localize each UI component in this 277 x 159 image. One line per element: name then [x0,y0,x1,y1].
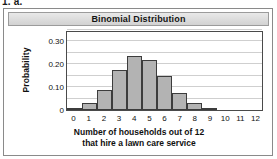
x-axis-tick-label: 12 [248,113,263,125]
bar-slot [97,32,112,110]
bar-slot [127,32,142,110]
x-axis-tick-label: 3 [111,113,126,125]
bar-slot [217,32,232,110]
x-axis-tick-label: 0 [66,113,81,125]
bar-slot [247,32,262,110]
gridline [67,29,262,30]
bar [187,103,202,110]
bar [157,76,172,110]
bar-slot [172,32,187,110]
x-axis-tick-label: 4 [127,113,142,125]
x-axis-title-line-1: Number of households out of 12 [24,127,254,138]
bar [112,70,127,110]
plot-area [66,31,263,111]
chart-title: Binomial Distribution [91,14,185,24]
bar-slot [157,32,172,110]
bar [127,56,142,110]
chart-figure-box: Binomial Distribution Probability 00.100… [3,8,273,156]
bar-slot [232,32,247,110]
x-axis-tick-labels: 0123456789101112 [66,113,263,125]
bar-slot [187,32,202,110]
y-axis-tick-label: 0.10 [38,84,64,92]
bar-slot [112,32,127,110]
bar [82,103,97,110]
x-axis-tick-label: 6 [157,113,172,125]
x-axis-tick-label: 1 [81,113,96,125]
bar [142,60,157,110]
bar [172,93,187,110]
bar-slot [202,32,217,110]
x-axis-tick-label: 2 [96,113,111,125]
bar-slot [67,32,82,110]
x-axis-title: Number of households out of 12 that hire… [24,127,254,149]
y-axis-tick-labels: 00.100.200.30 [34,31,64,111]
y-axis-tick-label: 0.20 [38,61,64,69]
x-axis-tick-label: 8 [187,113,202,125]
figure-root: 1. a. Binomial Distribution Probability … [0,0,277,159]
x-axis-tick-label: 5 [142,113,157,125]
problem-number-label: 1. a. [2,0,22,7]
x-axis-title-line-2: that hire a lawn care service [24,138,254,149]
bar-slot [82,32,97,110]
y-axis-title: Probability [21,40,31,100]
bar [202,108,217,110]
x-axis-tick-label: 11 [233,113,248,125]
x-axis-tick-label: 9 [202,113,217,125]
bar-slot [142,32,157,110]
bar [97,90,112,110]
y-axis-tick-label: 0 [38,107,64,115]
chart-title-band: Binomial Distribution [8,12,269,26]
x-axis-tick-label: 7 [172,113,187,125]
bar-series [67,32,262,110]
x-axis-tick-label: 10 [218,113,233,125]
bar [67,108,82,110]
y-axis-tick-label: 0.30 [38,38,64,46]
